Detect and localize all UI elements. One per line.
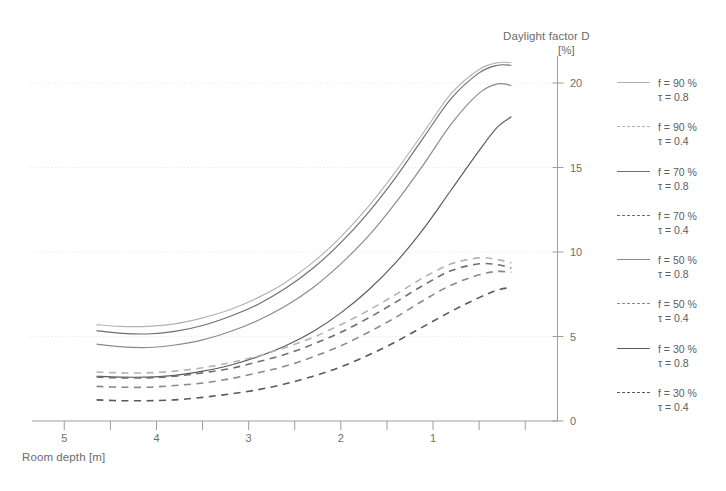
legend-label-tau: τ = 0.4: [658, 400, 697, 414]
legend-label-tau: τ = 0.8: [658, 267, 697, 281]
curve-f30-tau04: [97, 287, 512, 400]
y-axis-unit: [%]: [558, 44, 575, 56]
curve-f50-tau08: [97, 84, 512, 348]
chart-figure: Daylight factor D [%] Room depth [m] 543…: [0, 0, 726, 491]
legend-item-f-30-tau-08[interactable]: f = 30 %τ = 0.8: [617, 342, 721, 386]
legend-label-tau: τ = 0.8: [658, 179, 697, 193]
legend-item-f-50-tau-04[interactable]: f = 50 %τ = 0.4: [617, 297, 721, 341]
legend-label-f: f = 30 %: [658, 387, 697, 399]
legend-item-f-90-tau-08[interactable]: f = 90 %τ = 0.8: [617, 76, 721, 120]
x-axis-title: Room depth [m]: [22, 451, 105, 463]
legend-label: f = 70 %τ = 0.4: [658, 209, 697, 237]
legend-line-swatch-solid-icon: [617, 82, 650, 83]
legend-label-tau: τ = 0.4: [658, 223, 697, 237]
legend-label: f = 70 %τ = 0.8: [658, 165, 697, 193]
x-tick-label-5: 5: [61, 432, 67, 444]
y-axis-title: Daylight factor D: [503, 30, 590, 42]
legend-line-swatch-dashed-icon: [617, 215, 650, 216]
legend-label: f = 90 %τ = 0.8: [658, 76, 697, 104]
legend-label-f: f = 30 %: [658, 343, 697, 355]
legend-line-swatch-solid-icon: [617, 171, 650, 172]
legend-line-swatch-dashed-icon: [617, 126, 650, 127]
y-tick-label-0: 0: [570, 415, 576, 427]
legend-label: f = 50 %τ = 0.4: [658, 297, 697, 325]
legend-label-tau: τ = 0.8: [658, 356, 697, 370]
legend-label-f: f = 70 %: [658, 210, 697, 222]
x-tick-label-3: 3: [246, 432, 252, 444]
legend-label: f = 30 %τ = 0.4: [658, 386, 697, 414]
legend-line-swatch-solid-icon: [617, 259, 650, 260]
curve-f70-tau04: [97, 263, 512, 378]
legend-label-tau: τ = 0.4: [658, 134, 697, 148]
data-curves: [97, 62, 512, 401]
legend-label: f = 50 %τ = 0.8: [658, 253, 697, 281]
legend-item-f-50-tau-08[interactable]: f = 50 %τ = 0.8: [617, 253, 721, 297]
legend-label: f = 90 %τ = 0.4: [658, 120, 697, 148]
legend-label-f: f = 50 %: [658, 298, 697, 310]
legend-item-f-70-tau-08[interactable]: f = 70 %τ = 0.8: [617, 165, 721, 209]
x-tick-label-1: 1: [430, 432, 436, 444]
chart-legend: f = 90 %τ = 0.8f = 90 %τ = 0.4f = 70 %τ …: [617, 76, 721, 430]
x-tick-label-4: 4: [153, 432, 159, 444]
legend-label-f: f = 90 %: [658, 121, 697, 133]
y-tick-label-10: 10: [570, 246, 582, 258]
legend-line-swatch-solid-icon: [617, 348, 650, 349]
curve-f50-tau04: [97, 271, 512, 387]
x-tick-label-2: 2: [338, 432, 344, 444]
legend-label-tau: τ = 0.4: [658, 311, 697, 325]
y-tick-label-20: 20: [570, 77, 582, 89]
legend-label: f = 30 %τ = 0.8: [658, 342, 697, 370]
legend-line-swatch-dashed-icon: [617, 392, 650, 393]
y-tick-label-5: 5: [570, 331, 576, 343]
legend-label-f: f = 70 %: [658, 166, 697, 178]
legend-item-f-30-tau-04[interactable]: f = 30 %τ = 0.4: [617, 386, 721, 430]
legend-label-f: f = 50 %: [658, 254, 697, 266]
legend-label-tau: τ = 0.8: [658, 90, 697, 104]
legend-line-swatch-dashed-icon: [617, 303, 650, 304]
legend-item-f-90-tau-04[interactable]: f = 90 %τ = 0.4: [617, 120, 721, 164]
y-tick-label-15: 15: [570, 162, 582, 174]
curve-f30-tau08: [97, 117, 512, 377]
legend-label-f: f = 90 %: [658, 77, 697, 89]
axes: [32, 56, 564, 430]
legend-item-f-70-tau-04[interactable]: f = 70 %τ = 0.4: [617, 209, 721, 253]
